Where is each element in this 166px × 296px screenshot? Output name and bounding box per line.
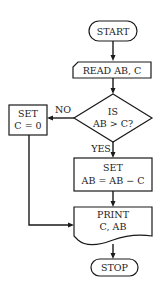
edge-set-c-print (29, 135, 69, 225)
yes-label: YES (90, 143, 111, 154)
arrow-head (111, 88, 116, 94)
read-node: READ AB, C (73, 62, 151, 78)
arrow-head (111, 201, 116, 207)
start-node: START (89, 21, 137, 41)
print-label-line2: C, AB (100, 221, 127, 232)
arrow-head (111, 152, 116, 158)
read-label: READ AB, C (83, 65, 142, 76)
decision-node: IS AB > C? (74, 94, 152, 142)
stop-label: STOP (101, 262, 129, 273)
decision-label-line2: AB > C? (92, 118, 133, 129)
set-c-label-line1: SET (18, 108, 38, 119)
print-label-line1: PRINT (97, 209, 130, 220)
set-c-node: SET C = 0 (9, 105, 47, 135)
set-ab-label-line2: AB = AB − C (81, 175, 145, 186)
print-node: PRINT C, AB (74, 207, 152, 245)
arrow-head (111, 55, 116, 61)
start-label: START (97, 26, 130, 37)
stop-node: STOP (91, 259, 138, 276)
arrow-head (111, 253, 116, 259)
set-ab-label-line1: SET (103, 162, 123, 173)
no-label: NO (55, 104, 71, 115)
decision-label-line1: IS (108, 106, 118, 117)
set-ab-node: SET AB = AB − C (74, 158, 152, 191)
flowchart: START READ AB, C IS AB > C? NO YES SET C… (0, 0, 166, 296)
set-c-label-line2: C = 0 (14, 120, 41, 131)
arrow-head (47, 116, 53, 121)
arrow-head (68, 223, 74, 228)
